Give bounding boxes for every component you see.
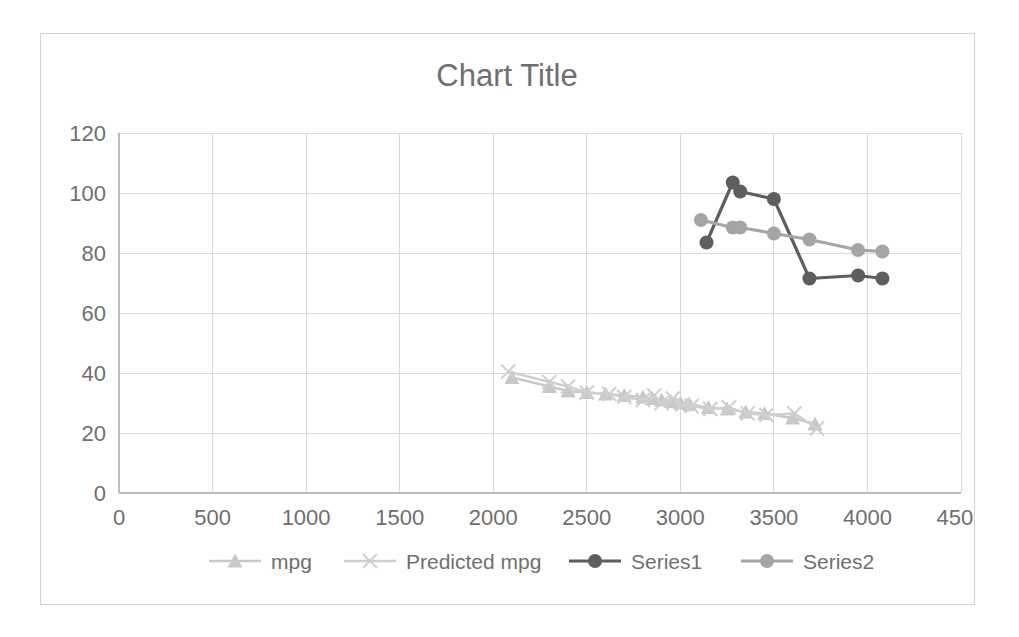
x-axis-tick-label: 4000 bbox=[843, 505, 892, 530]
x-axis-tick-label: 500 bbox=[194, 505, 231, 530]
x-axis-tick-label: 1500 bbox=[375, 505, 424, 530]
data-point-circle-marker bbox=[767, 192, 781, 206]
legend-item-label: Series1 bbox=[631, 550, 702, 573]
x-axis-tick-label: 2000 bbox=[469, 505, 518, 530]
y-axis-tick-label: 120 bbox=[69, 121, 106, 146]
data-point-circle-marker bbox=[802, 272, 816, 286]
legend-item[interactable]: Predicted mpg bbox=[344, 550, 541, 573]
y-axis-tick-labels: 020406080100120 bbox=[69, 121, 106, 506]
data-point-circle-marker bbox=[767, 227, 781, 241]
legend-item[interactable]: Series1 bbox=[569, 550, 702, 573]
y-axis-tick-label: 80 bbox=[82, 241, 106, 266]
x-axis-tick-label: 3500 bbox=[749, 505, 798, 530]
x-axis-tick-label: 1000 bbox=[282, 505, 331, 530]
data-point-circle-marker bbox=[851, 269, 865, 283]
chart-frame[interactable]: Chart Title 020406080100120 050010001500… bbox=[40, 33, 975, 605]
x-axis-tick-label: 3000 bbox=[656, 505, 705, 530]
data-point-circle-marker bbox=[733, 221, 747, 235]
data-point-x-marker bbox=[501, 365, 515, 379]
data-series[interactable] bbox=[694, 213, 889, 259]
data-point-circle-marker bbox=[700, 236, 714, 250]
chart-title: Chart Title bbox=[436, 58, 577, 93]
chart-legend[interactable]: mpgPredicted mpgSeries1Series2 bbox=[209, 550, 874, 573]
y-axis-tick-label: 0 bbox=[94, 481, 106, 506]
legend-item[interactable]: Series2 bbox=[741, 550, 874, 573]
data-point-circle-marker bbox=[875, 272, 889, 286]
y-gridlines bbox=[119, 133, 961, 493]
legend-item-label: mpg bbox=[271, 550, 312, 573]
y-axis-tick-label: 20 bbox=[82, 421, 106, 446]
x-axis-tick-label: 2500 bbox=[562, 505, 611, 530]
y-axis-tick-label: 40 bbox=[82, 361, 106, 386]
data-point-circle-marker bbox=[875, 245, 889, 259]
data-point-circle-marker bbox=[802, 233, 816, 247]
data-point-circle-marker bbox=[851, 243, 865, 257]
data-point-circle-marker bbox=[588, 554, 602, 568]
data-series-layer[interactable] bbox=[501, 176, 889, 436]
legend-item-label: Series2 bbox=[803, 550, 874, 573]
x-axis-tick-label: 4500 bbox=[937, 505, 974, 530]
x-axis-tick-labels: 050010001500200025003000350040004500 bbox=[113, 505, 974, 530]
x-axis-tick-label: 0 bbox=[113, 505, 125, 530]
chart-page: Chart Title 020406080100120 050010001500… bbox=[0, 0, 1019, 637]
y-axis-tick-label: 100 bbox=[69, 181, 106, 206]
legend-item-label: Predicted mpg bbox=[406, 550, 541, 573]
data-point-circle-marker bbox=[760, 554, 774, 568]
data-point-circle-marker bbox=[694, 213, 708, 227]
data-point-circle-marker bbox=[733, 185, 747, 199]
y-axis-tick-label: 60 bbox=[82, 301, 106, 326]
chart-canvas[interactable]: Chart Title 020406080100120 050010001500… bbox=[41, 34, 974, 604]
legend-item[interactable]: mpg bbox=[209, 550, 312, 573]
